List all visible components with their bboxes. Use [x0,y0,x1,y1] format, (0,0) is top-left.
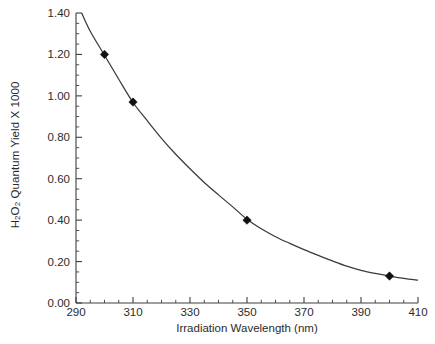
y-tick-label: 0.00 [28,297,70,309]
y-tick-label: 0.80 [28,131,70,143]
x-tick-label: 370 [294,306,313,318]
y-tick-label: 0.40 [28,214,70,226]
y-tick-label: 1.00 [28,90,70,102]
x-tick-label: 410 [408,306,427,318]
y-tick-label: 1.40 [28,7,70,19]
data-point-markers [100,50,393,280]
x-tick-label: 290 [66,306,85,318]
fit-curve [82,13,418,280]
x-tick-label: 390 [351,306,370,318]
x-tick-label: 310 [123,306,142,318]
x-tick-label: 330 [180,306,199,318]
chart-figure: H2O2 Quantum Yield X 1000 0.000.200.400.… [0,0,435,344]
major-tick-marks [76,13,418,303]
y-tick-label: 0.20 [28,256,70,268]
y-tick-label: 0.60 [28,173,70,185]
y-axis-title-text: H2O2 Quantum Yield X 1000 [8,82,22,229]
data-point [385,272,393,280]
y-axis-title: H2O2 Quantum Yield X 1000 [2,0,28,310]
x-axis-title: Irradiation Wavelength (nm) [76,322,418,334]
x-tick-label: 350 [237,306,256,318]
minor-tick-marks [76,23,404,303]
y-tick-label: 1.20 [28,48,70,60]
